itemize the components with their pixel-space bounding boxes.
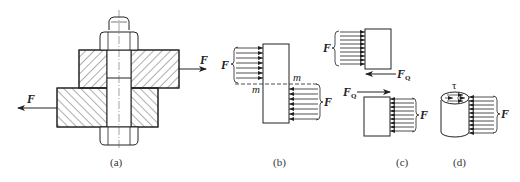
force-arrow-right: F <box>179 53 208 69</box>
shear-bolt-diagram: F F (a) F <box>0 0 520 182</box>
cylinder-body <box>441 100 469 137</box>
force-arrow-left: F <box>18 92 57 108</box>
bolt-shank-body <box>263 44 289 123</box>
caption-c: (c) <box>396 156 409 169</box>
panel-b: F F m m (b) <box>220 44 332 169</box>
svg-text:F: F <box>322 41 331 55</box>
svg-text:F: F <box>199 53 208 67</box>
svg-text:F: F <box>26 92 35 106</box>
distributed-load-upper <box>340 32 365 64</box>
svg-text:FQ: FQ <box>396 67 411 82</box>
panel-a: F F (a) <box>18 10 208 169</box>
caption-a: (a) <box>110 156 123 169</box>
distributed-load-lower <box>390 99 414 131</box>
section-label-m-left: m <box>252 83 260 95</box>
section-label-m-right: m <box>293 71 301 83</box>
panel-c: F FQ FQ F (c) <box>322 29 428 169</box>
svg-text:F: F <box>500 107 509 121</box>
upper-bolt-part <box>365 29 391 69</box>
distributed-load-right <box>289 89 318 119</box>
brace-upper <box>332 31 339 66</box>
svg-text:F: F <box>419 108 428 122</box>
lower-bolt-part <box>364 97 390 136</box>
distributed-load-d <box>469 97 494 133</box>
svg-text:F: F <box>220 58 229 72</box>
svg-text:F: F <box>323 95 332 109</box>
caption-b: (b) <box>273 156 286 169</box>
shear-stress-label: τ <box>452 79 457 91</box>
caption-d: (d) <box>453 156 466 169</box>
panel-d: τ F (d) <box>441 79 509 169</box>
distributed-load-left <box>236 48 263 78</box>
svg-text:FQ: FQ <box>342 85 357 100</box>
brace-d <box>493 96 500 133</box>
